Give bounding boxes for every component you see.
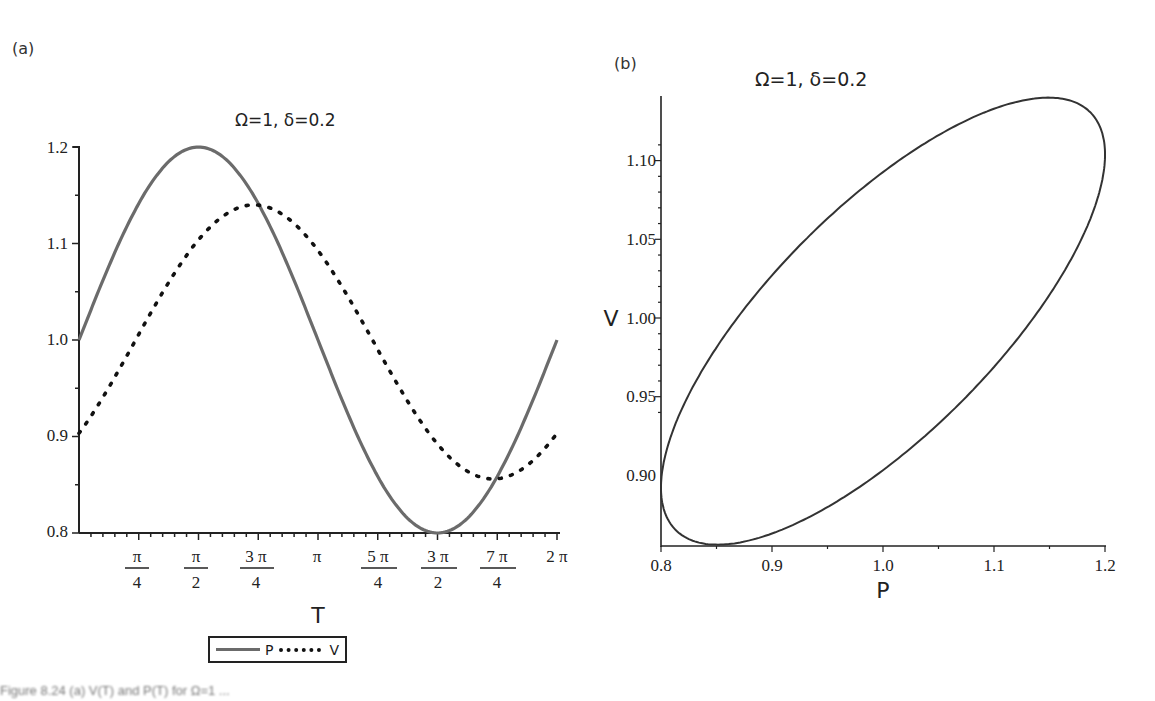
chart-b-y-axis-title: V — [603, 306, 618, 331]
svg-text:π: π — [313, 547, 322, 566]
svg-text:1.1: 1.1 — [47, 234, 68, 253]
svg-text:0.90: 0.90 — [626, 466, 656, 485]
chart-a-y-ticks — [72, 147, 79, 533]
chart-a-x-tick-labels: π 4 π 2 3 π 4 π 5 π 4 3 π 2 7 π 4 2 π — [125, 547, 568, 592]
svg-text:0.9: 0.9 — [761, 556, 782, 575]
svg-text:π: π — [192, 547, 201, 566]
svg-text:0.9: 0.9 — [47, 426, 68, 445]
figure-canvas: 1.2 1.1 1.0 0.9 0.8 π 4 π 2 3 π 4 π 5 π … — [0, 0, 1155, 701]
svg-text:4: 4 — [374, 573, 383, 592]
legend-v-swatch — [279, 648, 321, 652]
series-p-line — [79, 147, 557, 533]
svg-text:1.00: 1.00 — [626, 309, 656, 328]
chart-a-x-axis-title: T — [310, 603, 325, 628]
svg-text:0.8: 0.8 — [47, 522, 68, 541]
phase-loop-curve — [661, 98, 1105, 545]
legend-p-label: P — [265, 642, 273, 658]
svg-text:4: 4 — [252, 573, 261, 592]
chart-a-y-tick-labels: 1.2 1.1 1.0 0.9 0.8 — [47, 138, 68, 541]
svg-text:0.95: 0.95 — [626, 387, 656, 406]
chart-b-x-ticks — [661, 546, 1105, 552]
svg-text:1.0: 1.0 — [872, 556, 893, 575]
chart-a-x-ticks — [91, 533, 557, 540]
chart-b-y-tick-labels: 1.10 1.05 1.00 0.95 0.90 — [626, 151, 656, 485]
svg-text:1.2: 1.2 — [47, 138, 68, 157]
svg-text:7 π: 7 π — [486, 547, 508, 566]
svg-text:2 π: 2 π — [546, 547, 568, 566]
legend-v-label: V — [329, 642, 339, 658]
svg-text:4: 4 — [493, 573, 502, 592]
svg-text:3 π: 3 π — [427, 547, 449, 566]
chart-b-axes — [661, 96, 1106, 547]
chart-b-y-ticks — [655, 145, 661, 413]
chart-b-x-tick-labels: 0.8 0.9 1.0 1.1 1.2 — [650, 556, 1115, 575]
svg-text:1.05: 1.05 — [626, 230, 656, 249]
figure-caption: Figure 8.24 (a) V(T) and P(T) for Ω=1 ..… — [0, 683, 230, 698]
svg-text:1.10: 1.10 — [626, 151, 656, 170]
svg-text:3 π: 3 π — [245, 547, 267, 566]
svg-text:1.1: 1.1 — [983, 556, 1004, 575]
chart-b-x-axis-title: P — [876, 578, 889, 603]
svg-text:0.8: 0.8 — [650, 556, 671, 575]
svg-text:2: 2 — [434, 573, 443, 592]
svg-text:1.2: 1.2 — [1094, 556, 1115, 575]
svg-text:π: π — [133, 547, 142, 566]
svg-text:1.0: 1.0 — [47, 330, 68, 349]
svg-text:4: 4 — [133, 573, 142, 592]
chart-a-legend: P V — [208, 636, 347, 663]
svg-text:2: 2 — [192, 573, 201, 592]
svg-text:5 π: 5 π — [367, 547, 389, 566]
legend-p-swatch — [216, 648, 260, 651]
